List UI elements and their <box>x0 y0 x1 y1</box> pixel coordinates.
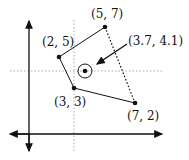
label-5-7: (5, 7) <box>91 8 123 20</box>
centroid-point <box>83 69 88 74</box>
label-2-5: (2, 5) <box>42 36 74 48</box>
point-2-5 <box>57 55 62 60</box>
diagram-canvas: (5, 7) (2, 5) (3, 3) (7, 2) (3.7, 4.1) <box>0 0 189 160</box>
diagram-svg <box>0 0 189 160</box>
point-3-3 <box>72 86 77 91</box>
centroid-arrow <box>97 44 127 64</box>
point-5-7 <box>103 25 108 30</box>
label-3-3: (3, 3) <box>54 96 86 108</box>
label-7-2: (7, 2) <box>127 110 159 122</box>
label-centroid: (3.7, 4.1) <box>128 35 183 47</box>
point-7-2 <box>133 101 138 106</box>
